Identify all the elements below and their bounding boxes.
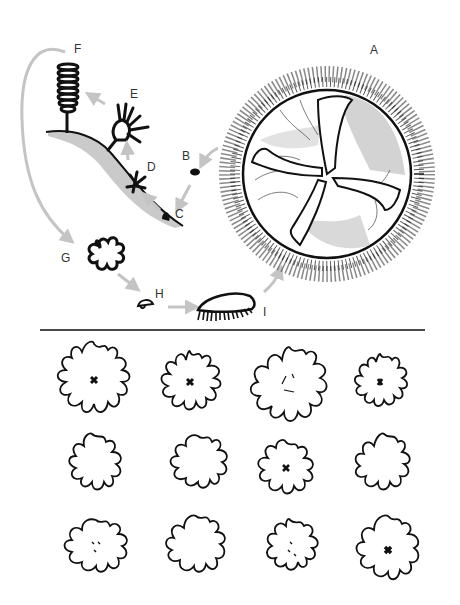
scyphistoma-drawing (108, 104, 148, 150)
stage-label-a: A (370, 44, 378, 56)
figure-drawing (0, 0, 460, 605)
section-divider (40, 329, 425, 331)
variant-11 (267, 519, 318, 570)
stage-label-c: C (175, 208, 184, 220)
variant-5 (69, 434, 121, 490)
stage-label-g: G (61, 252, 70, 264)
variant-10 (166, 516, 225, 572)
planula-drawing (190, 169, 200, 176)
stage-label-h: H (155, 288, 164, 300)
variant-grid (58, 342, 419, 580)
strobila-drawing (58, 64, 78, 133)
stage-label-i: I (263, 306, 266, 318)
adult-medusa-drawing (227, 74, 427, 274)
variant-6 (171, 435, 227, 487)
stage-label-f: F (74, 43, 81, 55)
stage-label-e: E (130, 88, 138, 100)
substrate (46, 131, 183, 228)
variant-3 (251, 347, 327, 421)
ephyra-drawing (89, 238, 123, 270)
stage-label-b: B (182, 150, 190, 162)
variant-12 (357, 516, 419, 580)
variant-8 (356, 434, 410, 490)
variant-7 (258, 440, 313, 494)
variant-1 (58, 342, 130, 412)
stage-label-d: D (147, 161, 156, 173)
variant-2 (161, 351, 220, 410)
variant-4 (355, 354, 407, 406)
juvenile-drawing (138, 300, 153, 308)
variant-9 (65, 519, 127, 571)
young-medusa-drawing (198, 294, 254, 321)
life-cycle-figure: F E B D C A G H I (0, 0, 460, 605)
